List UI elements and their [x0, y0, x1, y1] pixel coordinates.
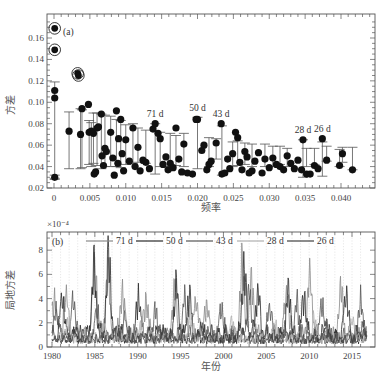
panel-label: (b)	[52, 237, 63, 248]
legend-item: 26 d	[287, 236, 334, 246]
y-tick-label: 8	[39, 245, 44, 255]
legend-label: 28 d	[267, 236, 284, 246]
x-tick-label: 2000	[214, 351, 233, 361]
legend-item: 71 d	[86, 236, 133, 246]
legend-item: 28 d	[237, 236, 284, 246]
y-tick-label: 4	[39, 294, 44, 304]
panel-b-plot: 1980198519901995200020052010201502468×10…	[4, 219, 375, 372]
y-tick-label: 0	[39, 342, 44, 352]
x-tick-label: 1990	[129, 351, 148, 361]
figure: 00.0050.0100.0150.0200.0250.0300.0350.04…	[0, 0, 388, 382]
panel-b-chart: 1980198519901995200020052010201502468×10…	[0, 0, 388, 382]
legend-label: 26 d	[317, 236, 334, 246]
x-tick-label: 2015	[343, 351, 362, 361]
x-tick-label: 2005	[257, 351, 276, 361]
x-tick-label: 2010	[300, 351, 319, 361]
legend-item: 50 d	[136, 236, 183, 246]
x-tick-label: 1985	[86, 351, 105, 361]
y-axis-title: 局地方差	[4, 270, 16, 310]
y-tick-label: 2	[39, 318, 44, 328]
x-axis-title: 年份	[201, 360, 221, 372]
x-tick-label: 1995	[172, 351, 191, 361]
legend-label: 43 d	[216, 236, 233, 246]
legend-label: 71 d	[116, 236, 133, 246]
x-tick-label: 1980	[43, 351, 62, 361]
legend-item: 43 d	[186, 236, 233, 246]
series-line-71-d	[52, 243, 367, 344]
y-tick-label: 6	[39, 269, 44, 279]
y-scale-label: ×10⁻⁴	[47, 219, 69, 229]
legend-label: 50 d	[166, 236, 183, 246]
